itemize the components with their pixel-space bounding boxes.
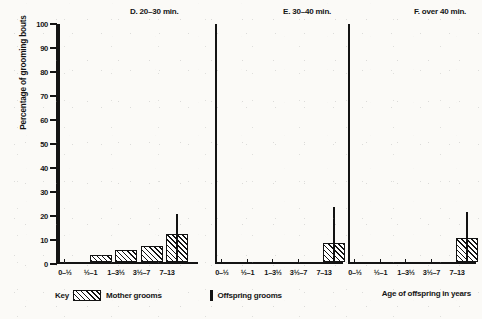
offspring-grooms-bar — [466, 212, 469, 262]
panel-title: D. 20–30 min. — [130, 7, 179, 16]
panel-title: E. 30–40 min. — [283, 7, 331, 16]
y-axis-tick — [50, 119, 57, 121]
y-axis-tick — [50, 239, 57, 241]
offspring-grooms-bar — [176, 214, 179, 262]
y-axis-tick — [50, 263, 57, 265]
legend: Key Mother grooms Offspring grooms — [55, 290, 282, 301]
y-axis-tick-label: 40 — [24, 164, 48, 173]
x-axis-tick — [272, 259, 273, 264]
x-axis-tick-label: 3½–7 — [288, 268, 310, 277]
y-axis-tick — [50, 71, 57, 73]
y-axis-tick-label: 90 — [24, 44, 48, 53]
mother-grooms-bar — [90, 255, 112, 262]
x-axis-tick — [247, 259, 248, 264]
y-axis-tick-label: 80 — [24, 68, 48, 77]
solid-line-icon — [210, 290, 213, 301]
x-axis-tick-label: 0–½ — [211, 268, 233, 277]
panel-e: E. 30–40 min.0–½½–11–3½3½–77–13 — [215, 24, 343, 264]
x-axis-tick-label: 3½–7 — [131, 268, 153, 277]
y-axis-tick-label: 10 — [24, 236, 48, 245]
x-axis-tick-label: 0–½ — [54, 268, 76, 277]
x-axis-tick-label: 3½–7 — [421, 268, 443, 277]
panel-vertical-axis — [215, 24, 217, 264]
x-axis-tick-label: 1–3½ — [105, 268, 127, 277]
panel-baseline — [58, 262, 198, 264]
y-axis-tick — [50, 143, 57, 145]
x-axis-tick-label: 0–½ — [344, 268, 366, 277]
x-axis-tick — [221, 259, 222, 264]
x-axis-tick — [354, 259, 355, 264]
x-axis-tick — [431, 259, 432, 264]
legend-key-word: Key — [55, 291, 69, 300]
y-axis-tick-label: 60 — [24, 116, 48, 125]
panel-d: D. 20–30 min.0–½½–11–3½3½–77–13 — [58, 24, 198, 264]
y-axis-tick-label: 30 — [24, 188, 48, 197]
x-axis-tick-label: 7–13 — [156, 268, 178, 277]
y-axis-tick — [50, 167, 57, 169]
mother-grooms-bar — [115, 250, 137, 262]
hatched-bar-icon — [73, 290, 101, 301]
x-axis-title: Age of offspring in years — [382, 289, 471, 298]
x-axis-tick-label: ½–1 — [370, 268, 392, 277]
y-axis-tick — [50, 191, 57, 193]
panel-f: F. over 40 min.0–½½–11–3½3½–77–13 — [348, 24, 476, 264]
x-axis-tick-label: 1–3½ — [395, 268, 417, 277]
y-axis-tick — [50, 47, 57, 49]
y-axis-tick-label: 100 — [24, 20, 48, 29]
x-axis-tick-label: 7–13 — [313, 268, 335, 277]
y-axis-tick-label: 0 — [24, 260, 48, 269]
y-axis-tick — [50, 215, 57, 217]
y-axis-tick-label: 70 — [24, 92, 48, 101]
x-axis-tick — [405, 259, 406, 264]
x-axis-tick — [380, 259, 381, 264]
x-axis-tick-label: 1–3½ — [262, 268, 284, 277]
panel-title: F. over 40 min. — [414, 7, 466, 16]
x-axis-tick-label: 7–13 — [446, 268, 468, 277]
x-axis-tick — [298, 259, 299, 264]
y-axis-tick-label: 20 — [24, 212, 48, 221]
x-axis-tick-label: ½–1 — [80, 268, 102, 277]
legend-offspring-label: Offspring grooms — [218, 291, 282, 300]
y-axis-tick — [50, 95, 57, 97]
x-axis-tick-label: ½–1 — [237, 268, 259, 277]
panel-vertical-axis — [348, 24, 350, 264]
legend-mother-label: Mother grooms — [106, 291, 162, 300]
x-axis-tick — [64, 259, 65, 264]
grooming-bouts-figure: Percentage of grooming bouts 10090807060… — [0, 0, 482, 319]
panel-vertical-axis — [58, 24, 60, 264]
y-axis-tick-label: 50 — [24, 140, 48, 149]
offspring-grooms-bar — [333, 207, 336, 262]
y-axis-tick — [50, 23, 57, 25]
mother-grooms-bar — [141, 246, 163, 263]
